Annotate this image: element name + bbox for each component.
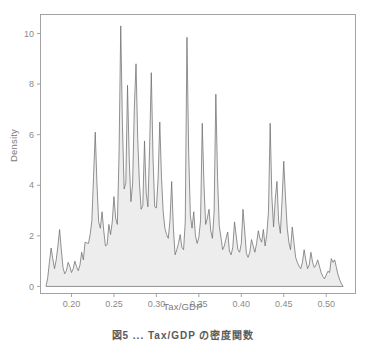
y-axis-title: Density [8,116,19,176]
figure-caption: 図5 ... Tax/GDP の密度関数 [0,327,366,342]
density-plot-svg: 0.200.250.300.350.400.450.500246810 [0,0,366,312]
svg-text:8: 8 [29,79,34,89]
svg-text:2: 2 [29,231,34,241]
svg-text:0: 0 [29,282,34,292]
density-area [46,26,343,287]
svg-text:10: 10 [24,29,34,39]
density-plot-figure: 0.200.250.300.350.400.450.500246810 Dens… [0,0,366,312]
svg-text:4: 4 [29,180,34,190]
svg-text:6: 6 [29,130,34,140]
x-axis-title: Tax/GDP [0,301,366,312]
